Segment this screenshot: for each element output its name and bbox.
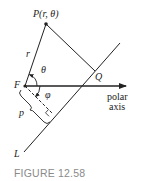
label-axis: axis bbox=[109, 101, 125, 112]
figure-caption: FIGURE 12.58 bbox=[14, 167, 85, 179]
label-r: r bbox=[26, 48, 30, 59]
segment-pq bbox=[46, 24, 95, 71]
label-theta: θ bbox=[41, 64, 46, 75]
label-focus: F bbox=[13, 79, 21, 90]
polar-conic-diagram: P(r, θ) r θ F Q φ p L polar axis FIGURE … bbox=[0, 0, 141, 181]
theta-arc bbox=[30, 75, 38, 86]
directrix-line-l bbox=[24, 43, 120, 152]
phi-arc bbox=[36, 86, 40, 97]
point-p-dot bbox=[44, 22, 48, 26]
focus-dot bbox=[23, 84, 26, 87]
label-l: L bbox=[13, 148, 20, 159]
label-phi: φ bbox=[45, 89, 51, 100]
label-q: Q bbox=[95, 71, 103, 82]
label-point-p: P(r, θ) bbox=[32, 8, 59, 20]
right-angle-mark bbox=[46, 110, 50, 117]
label-p: p bbox=[18, 107, 24, 118]
